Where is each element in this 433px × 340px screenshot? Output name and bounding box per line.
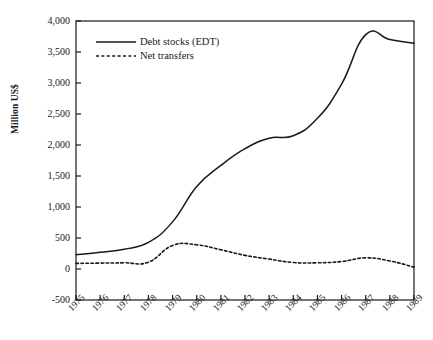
y-axis-ticks [76,21,81,300]
y-axis-title: Million US$ [10,49,20,169]
series-line-1 [76,31,414,255]
legend-label-1: Debt stocks (EDT) [140,36,219,47]
y-tick-label: 4,000 [24,16,70,26]
y-tick-label: 3,500 [24,47,70,57]
y-tick-label: 500 [24,233,70,243]
y-tick-label: 1,000 [24,202,70,212]
y-tick-label: 2,500 [24,109,70,119]
series-line-2 [76,243,414,267]
data-series-group [76,31,414,267]
legend-swatches [96,42,136,56]
y-tick-label: 2,000 [24,140,70,150]
chart-figure: Million US$ -50005001,0001,5002,0002,500… [0,0,433,340]
y-tick-label: -500 [24,295,70,305]
y-tick-label: 1,500 [24,171,70,181]
y-tick-label: 0 [24,264,70,274]
legend-label-2: Net transfers [140,50,194,61]
y-tick-label: 3,000 [24,78,70,88]
